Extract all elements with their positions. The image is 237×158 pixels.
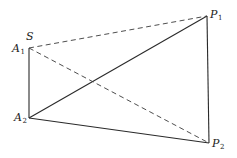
label-a2: A2	[14, 112, 27, 125]
dashed-segment-s-p1	[29, 16, 207, 48]
label-p1-sub: 1	[218, 14, 222, 22]
label-s-text: S	[26, 30, 34, 43]
label-a1: A1	[12, 43, 25, 56]
label-a2-sub: 2	[22, 117, 26, 125]
segment-a2-p1	[29, 16, 207, 118]
label-a2-text: A	[14, 111, 22, 124]
label-a1-sub: 1	[20, 48, 24, 56]
label-p2-sub: 2	[220, 143, 224, 151]
label-p1: P1	[210, 9, 222, 22]
label-s: S	[26, 31, 34, 42]
label-a1-text: A	[12, 42, 20, 55]
geometric-diagram	[0, 0, 237, 158]
segment-a2-p2	[29, 118, 209, 143]
segment-p1-p2	[207, 16, 209, 143]
label-p2: P2	[212, 138, 224, 151]
label-p1-text: P	[210, 8, 217, 21]
label-p2-text: P	[212, 137, 219, 150]
dashed-segment-s-p2	[29, 48, 209, 143]
